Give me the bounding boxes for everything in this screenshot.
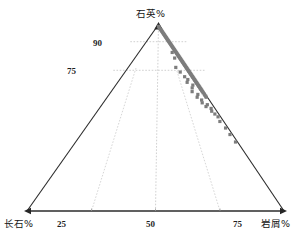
axis-label-quartz: 石英% — [136, 9, 165, 19]
axis-left-edge — [27, 25, 159, 212]
vertex-markers — [24, 22, 287, 214]
data-point — [183, 75, 186, 78]
vertex-marker-left — [24, 208, 31, 214]
data-point — [216, 115, 219, 118]
data-point — [213, 112, 216, 115]
data-point — [179, 70, 182, 73]
data-point — [210, 110, 213, 113]
tick-label-bottom-50: 50 — [146, 220, 155, 229]
data-point — [191, 84, 194, 87]
axis-label-feldspar: 长石% — [4, 219, 33, 229]
scatter-data-points — [157, 25, 237, 144]
data-point — [200, 98, 203, 101]
axis-label-lithic: 岩屑% — [261, 219, 290, 229]
data-point — [196, 93, 199, 96]
tick-label-bottom-25: 25 — [57, 220, 66, 229]
triangle-axes — [27, 25, 284, 212]
data-point — [186, 78, 189, 81]
data-point — [191, 90, 194, 93]
data-point — [186, 81, 189, 84]
vertex-marker-right — [280, 208, 287, 214]
data-point — [196, 96, 199, 99]
data-point — [201, 101, 204, 104]
data-point — [210, 107, 213, 110]
data-point — [218, 120, 221, 123]
data-point — [224, 126, 227, 129]
tick-label-left-90: 90 — [93, 39, 102, 48]
tick-label-bottom-75: 75 — [233, 220, 242, 229]
data-point — [228, 133, 231, 136]
data-point — [204, 105, 207, 108]
data-point — [205, 96, 208, 99]
gridline-lithic-75 — [176, 68, 220, 211]
data-point — [173, 56, 176, 59]
data-point — [174, 66, 177, 69]
tick-label-left-75: 75 — [67, 67, 76, 76]
grid-lines — [92, 25, 221, 212]
data-point — [191, 86, 194, 89]
gridline-lithic-50 — [156, 25, 159, 212]
gridline-feldspar-25 — [92, 68, 137, 211]
ternary-plot-canvas — [0, 0, 307, 242]
data-point — [171, 51, 174, 54]
data-point — [234, 140, 237, 143]
ternary-diagram-figure: 石英% 长石% 岩屑% 25 50 75 90 75 — [0, 0, 307, 242]
